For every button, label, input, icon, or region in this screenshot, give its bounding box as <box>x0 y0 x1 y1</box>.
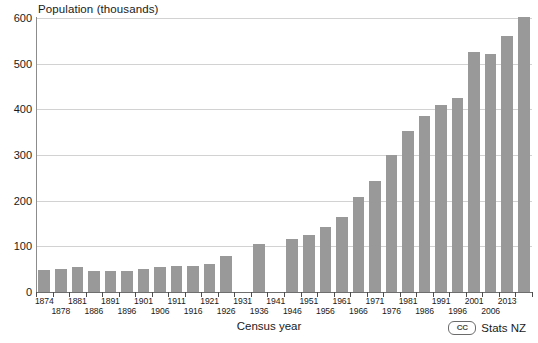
x-tick-label: 1911 <box>167 296 185 306</box>
x-tick-label: 1891 <box>101 296 120 306</box>
x-tick-label: 1976 <box>382 306 401 316</box>
bar <box>320 227 332 292</box>
x-tick-label: 1931 <box>233 296 252 306</box>
x-tick-label: 1936 <box>250 306 269 316</box>
y-axis-title: Population (thousands) <box>38 3 158 15</box>
bar <box>303 235 315 292</box>
brand-name: Stats NZ <box>481 322 526 334</box>
bar <box>204 264 216 292</box>
x-tick-label: 1971 <box>366 296 385 306</box>
bar <box>353 197 365 292</box>
bar <box>386 155 398 292</box>
population-bar-chart: Population (thousands) 01002003004005006… <box>0 0 538 343</box>
y-tick-label: 600 <box>2 12 32 24</box>
bar <box>435 105 447 292</box>
x-tick-label: 1961 <box>333 296 352 306</box>
bar <box>220 256 232 292</box>
x-tick-label: 2013 <box>498 296 517 306</box>
x-tick-label: 1921 <box>200 296 219 306</box>
bar <box>518 17 530 292</box>
bar <box>72 267 84 292</box>
y-tick-label: 100 <box>2 240 32 252</box>
x-tick <box>532 292 533 297</box>
y-tick-label: 400 <box>2 103 32 115</box>
x-tick-label: 1991 <box>432 296 451 306</box>
bar <box>105 271 117 292</box>
bar <box>468 52 480 292</box>
x-tick-label: 2001 <box>465 296 484 306</box>
bar <box>55 269 67 292</box>
bar <box>154 267 166 292</box>
bar <box>38 270 50 292</box>
y-tick-label: 0 <box>2 286 32 298</box>
x-tick-label: 1886 <box>85 306 104 316</box>
gridline <box>36 64 532 65</box>
x-tick-label: 1916 <box>184 306 203 316</box>
x-tick-label: 1981 <box>399 296 418 306</box>
x-tick-label: 1946 <box>283 306 302 316</box>
x-tick-label: 1926 <box>217 306 236 316</box>
y-tick-label: 500 <box>2 58 32 70</box>
creative-commons-icon: CC <box>448 321 476 335</box>
x-tick-label: 2006 <box>481 306 500 316</box>
bar <box>501 36 513 292</box>
plot-area <box>36 18 532 292</box>
bar <box>419 116 431 292</box>
x-tick-label: 1966 <box>349 306 368 316</box>
bar <box>452 98 464 292</box>
bar <box>286 239 298 292</box>
x-tick-label: 1986 <box>415 306 434 316</box>
bar <box>171 266 183 292</box>
bar <box>485 54 497 292</box>
x-tick-label: 1906 <box>151 306 170 316</box>
bar <box>121 271 133 292</box>
bar <box>88 271 100 292</box>
bar <box>187 266 199 292</box>
bar <box>138 269 150 292</box>
x-tick-label: 1996 <box>448 306 467 316</box>
x-tick-label: 1956 <box>316 306 335 316</box>
bar <box>253 244 265 292</box>
bar <box>369 181 381 292</box>
x-tick-label: 1881 <box>68 296 87 306</box>
x-tick-label: 1874 <box>35 296 54 306</box>
x-tick-label: 1951 <box>299 296 318 306</box>
bar <box>336 217 348 292</box>
x-tick-label: 1941 <box>266 296 285 306</box>
stats-nz-brand: CC Stats NZ <box>448 321 526 335</box>
x-tick-label: 1878 <box>51 306 70 316</box>
x-tick-label: 1901 <box>134 296 153 306</box>
y-tick-label: 200 <box>2 195 32 207</box>
gridline <box>36 18 532 19</box>
y-tick-label: 300 <box>2 149 32 161</box>
bar <box>402 131 414 292</box>
x-tick-label: 1896 <box>118 306 137 316</box>
y-axis-tick-labels: 0100200300400500600 <box>0 0 32 343</box>
y-axis-line <box>36 17 37 293</box>
